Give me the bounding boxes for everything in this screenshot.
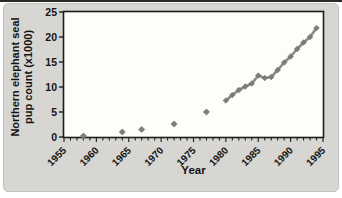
y-tick-label: 15 (45, 56, 57, 68)
y-tick-label: 5 (51, 106, 57, 118)
y-axis-title: Northern elephant seal pup count (x1000) (9, 4, 37, 150)
plot-frame (64, 12, 324, 138)
y-tick-label: 20 (45, 31, 57, 43)
y-tick-label: 0 (51, 131, 57, 143)
x-axis-title: Year (64, 164, 323, 176)
y-tick-label: 10 (45, 81, 57, 93)
y-tick-label: 25 (45, 6, 57, 18)
